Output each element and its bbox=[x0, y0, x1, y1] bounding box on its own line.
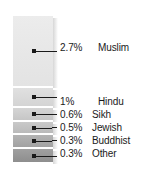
callout-value-jewish: 0.5% bbox=[60, 122, 89, 133]
callout-name-buddhist: Buddhist bbox=[92, 135, 130, 146]
callout-name-hindu: Hindu bbox=[98, 96, 124, 107]
stacked-bar-chart: 2.7% Muslim 1% Hindu 0.6% Sikh 0.5% Jewi… bbox=[0, 0, 142, 170]
leader-tail-jewish bbox=[52, 127, 57, 128]
leader-line-other bbox=[34, 156, 57, 157]
callout-name-jewish: Jewish bbox=[92, 122, 122, 133]
callout-name-muslim: Muslim bbox=[98, 42, 129, 53]
callout-name-sikh: Sikh bbox=[92, 109, 111, 120]
leader-line-muslim bbox=[34, 51, 57, 52]
leader-tail-sikh bbox=[52, 114, 57, 115]
leader-line-sikh bbox=[34, 114, 52, 115]
leader-line-hindu bbox=[34, 97, 57, 98]
callout-label-hindu: 1% Hindu bbox=[60, 95, 124, 107]
leader-line-buddhist bbox=[34, 141, 52, 142]
callout-value-other: 0.3% bbox=[60, 148, 89, 159]
callout-value-hindu: 1% bbox=[60, 96, 89, 107]
callout-label-sikh: 0.6% Sikh bbox=[60, 108, 111, 120]
leader-line-jewish bbox=[34, 128, 52, 129]
callout-name-other: Other bbox=[92, 148, 117, 159]
callout-value-muslim: 2.7% bbox=[60, 42, 89, 53]
callout-label-muslim: 2.7% Muslim bbox=[60, 41, 129, 53]
callout-value-buddhist: 0.3% bbox=[60, 135, 89, 146]
callout-label-jewish: 0.5% Jewish bbox=[60, 121, 122, 133]
callout-value-sikh: 0.6% bbox=[60, 109, 89, 120]
callout-label-other: 0.3% Other bbox=[60, 147, 117, 159]
callout-label-buddhist: 0.3% Buddhist bbox=[60, 134, 130, 146]
leader-tail-buddhist bbox=[52, 140, 57, 141]
